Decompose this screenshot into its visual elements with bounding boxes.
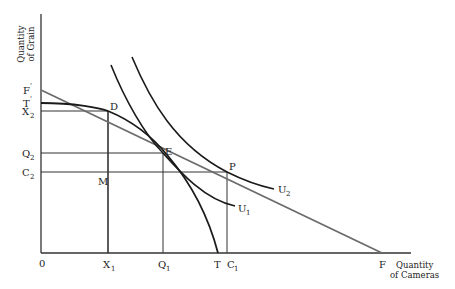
- svg-text:F: F: [23, 85, 30, 96]
- svg-text:T: T: [214, 259, 221, 270]
- point-e-label: E: [165, 146, 172, 157]
- x-tick-c1: C 1: [227, 259, 238, 273]
- x-axis-title-line1: Quantity: [396, 260, 434, 270]
- x-tick-x1: X 1: [103, 259, 115, 273]
- svg-text:C: C: [22, 167, 30, 178]
- svg-text:': ': [30, 95, 32, 103]
- svg-text:2: 2: [286, 190, 290, 198]
- svg-text:1: 1: [246, 209, 250, 217]
- x-tick-f: F: [379, 259, 386, 270]
- point-d-label: D: [110, 101, 118, 112]
- trade-gains-diagram: Quantity of Grain Quantity of Cameras 0 …: [0, 0, 455, 289]
- svg-text:F: F: [379, 259, 386, 270]
- y-axis-title: Quantity of Grain: [16, 25, 36, 63]
- y-tick-q2: Q 2: [22, 148, 34, 162]
- x-axis-title-line2: of Cameras: [390, 270, 439, 280]
- svg-text:1: 1: [166, 265, 170, 273]
- svg-text:X: X: [103, 259, 111, 270]
- svg-text:': ': [30, 82, 32, 90]
- transformation-curve: [41, 103, 218, 253]
- y-tick-c2: C 2: [22, 167, 34, 181]
- svg-text:1: 1: [111, 265, 115, 273]
- svg-text:2: 2: [30, 112, 34, 120]
- y-tick-f-prime: F ': [23, 82, 32, 96]
- indifference-curve-u1: [111, 65, 235, 206]
- svg-text:2: 2: [30, 154, 34, 162]
- x-tick-q1: Q 1: [158, 259, 170, 273]
- svg-text:X: X: [22, 106, 30, 117]
- curve-label-u2: U 2: [278, 184, 290, 198]
- svg-text:Q: Q: [158, 259, 166, 270]
- svg-text:1: 1: [234, 265, 238, 273]
- x-tick-t: T: [214, 259, 221, 270]
- svg-text:of Grain: of Grain: [26, 26, 36, 62]
- point-p-label: P: [229, 161, 236, 172]
- svg-text:Q: Q: [22, 148, 30, 159]
- y-tick-x2: X 2: [22, 106, 34, 120]
- svg-text:Quantity: Quantity: [16, 25, 26, 63]
- svg-text:2: 2: [30, 173, 34, 181]
- point-m-label: M: [98, 176, 108, 187]
- curve-label-u1: U 1: [238, 203, 250, 217]
- origin-label: 0: [39, 258, 45, 269]
- indifference-curve-u2: [132, 57, 274, 189]
